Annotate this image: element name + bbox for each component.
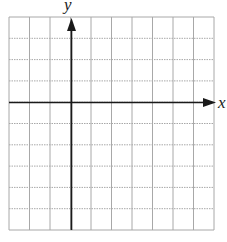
- y-axis-label: y: [62, 0, 72, 14]
- x-axis: [9, 98, 216, 107]
- coordinate-plane: x y: [0, 0, 227, 242]
- y-axis-arrow-icon: [67, 18, 76, 31]
- grid: [9, 17, 214, 230]
- x-axis-label: x: [217, 93, 226, 112]
